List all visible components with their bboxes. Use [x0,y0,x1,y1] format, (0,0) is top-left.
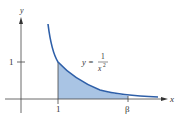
y-axis-arrow-icon [19,17,23,24]
x-axis-arrow-icon [161,97,168,101]
x-tick-label-one: 1 [56,104,61,114]
x-tick-label-beta: β [125,104,130,114]
equation-exponent: 2 [103,62,106,68]
equation-lhs: y = [81,57,94,67]
integral-diagram: y x 1 1 β y = 1 x 2 [0,0,177,119]
x-axis-label: x [169,94,174,104]
equation-denominator: x [97,64,102,73]
y-tick-label-one: 1 [9,57,14,67]
y-axis-label: y [19,6,24,15]
equation-numerator: 1 [101,52,105,61]
